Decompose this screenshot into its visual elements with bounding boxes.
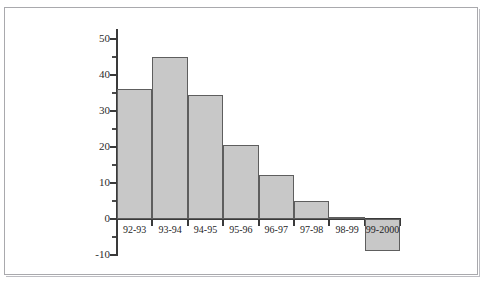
y-tick-label: 20 xyxy=(84,141,110,152)
y-tick-label-wrap: 30 xyxy=(80,105,110,116)
y-tick-minor xyxy=(112,128,116,130)
y-tick-major xyxy=(110,74,116,76)
y-tick-label: 10 xyxy=(84,177,110,188)
bar-94-95 xyxy=(188,95,223,219)
y-tick-major xyxy=(110,146,116,148)
y-tick-label-wrap: 0 xyxy=(80,213,110,224)
y-tick-minor xyxy=(112,200,116,202)
bar-92-93 xyxy=(117,89,152,219)
y-tick-label: 40 xyxy=(84,69,110,80)
y-tick-label-wrap: 50 xyxy=(80,33,110,44)
y-tick-label: 30 xyxy=(84,105,110,116)
y-tick-label-wrap: -10 xyxy=(80,249,110,260)
y-tick-minor xyxy=(112,92,116,94)
x-label-99-2000: 99-2000 xyxy=(360,224,405,236)
bar-93-94 xyxy=(152,57,187,219)
y-tick-label-wrap: 20 xyxy=(80,141,110,152)
y-tick-minor xyxy=(112,56,116,58)
y-tick-label: 50 xyxy=(84,33,110,44)
bar-95-96 xyxy=(223,145,258,219)
bar-98-99 xyxy=(329,217,364,219)
y-tick-label-wrap: 10 xyxy=(80,177,110,188)
y-tick-minor xyxy=(112,164,116,166)
y-tick-major xyxy=(110,38,116,40)
y-tick-major xyxy=(110,182,116,184)
bar-96-97 xyxy=(259,175,294,219)
plot-area: 50403020100-10 92-9393-9494-9595-9696-97… xyxy=(0,0,489,283)
chart-screenshot: 50403020100-10 92-9393-9494-9595-9696-97… xyxy=(0,0,489,283)
y-tick-minor xyxy=(112,236,116,238)
y-tick-major xyxy=(110,110,116,112)
bar-97-98 xyxy=(294,201,329,219)
y-tick-major xyxy=(110,254,116,256)
y-tick-label: -10 xyxy=(84,249,110,260)
y-tick-label-wrap: 40 xyxy=(80,69,110,80)
y-tick-label: 0 xyxy=(84,213,110,224)
